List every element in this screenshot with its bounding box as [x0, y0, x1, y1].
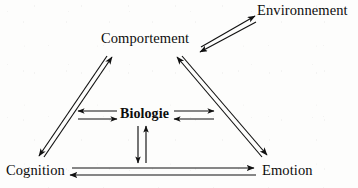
node-label-environnement: Environnement [257, 3, 348, 18]
edge-cognition-emotion [70, 168, 256, 175]
diagram-canvas: Comportement Environnement Biologie Cogn… [0, 0, 358, 188]
node-label-comportement: Comportement [101, 31, 189, 46]
edge-comportement-emotion [177, 56, 267, 157]
diagram-arrows-layer [0, 0, 358, 188]
edge-comportement-cognition [39, 56, 112, 157]
edge-biologie-cognition [78, 111, 117, 119]
edge-comportement-environnement [200, 16, 256, 52]
edge-biologie-emotion [174, 111, 214, 119]
node-label-biologie: Biologie [120, 107, 169, 121]
node-label-emotion: Emotion [262, 163, 313, 178]
node-label-cognition: Cognition [6, 163, 65, 178]
edge-biologie-bottom [138, 126, 146, 163]
